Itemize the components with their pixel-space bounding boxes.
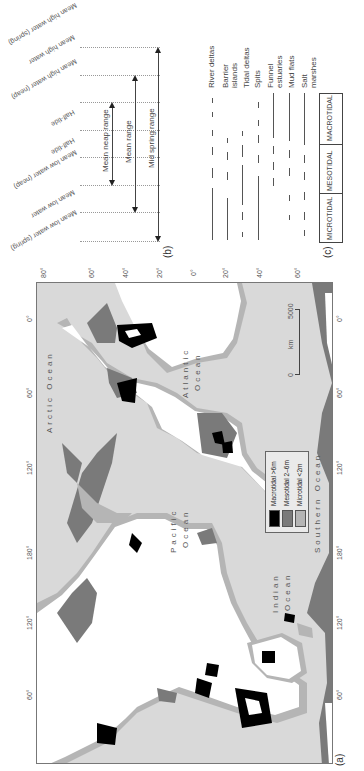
landform-label-line2: marshes bbox=[309, 57, 318, 88]
scale-bar-tick bbox=[295, 374, 300, 375]
arrow-down-icon bbox=[155, 236, 161, 242]
level-line bbox=[80, 212, 160, 213]
regime-cell-microtidal: MICROTIDAL bbox=[320, 194, 342, 242]
occurrence-segment bbox=[212, 112, 213, 117]
range-label-mean: Mean range bbox=[124, 120, 133, 163]
legend-label-microtidal: Microtidal <2m bbox=[296, 464, 303, 506]
level-label-mlw-neap: Mean low water (neap) bbox=[13, 149, 78, 191]
panel-label-c: (c) bbox=[322, 246, 333, 258]
lon-tick-label: 120° bbox=[26, 461, 33, 475]
arrow-down-icon bbox=[132, 207, 138, 213]
range-label-spring: Mid spring range bbox=[147, 108, 156, 168]
neap-range-arrow bbox=[112, 104, 113, 184]
level-label-sub: (neap) bbox=[13, 174, 34, 190]
range-label-neap: Mean neap range bbox=[101, 109, 110, 172]
level-label-mlw-spring: Mean low water (spring) bbox=[10, 209, 78, 252]
lat-tick-label: 60° bbox=[294, 267, 301, 278]
ocean-label-atlantic: Ocean bbox=[193, 352, 202, 391]
occurrence-segment bbox=[304, 212, 305, 220]
legend-swatch-mesotidal bbox=[282, 510, 293, 527]
level-label-text: Mean high water bbox=[30, 2, 78, 34]
occurrence-segment bbox=[258, 155, 259, 163]
occurrence-segment bbox=[289, 93, 290, 141]
lon-tick-label: 180° bbox=[336, 546, 343, 560]
ocean-label-indian: Indian bbox=[271, 573, 280, 613]
map-frame: Arctic Ocean Atlantic Ocean Pacific Ocea… bbox=[36, 282, 333, 764]
mean-range-arrow bbox=[135, 77, 136, 211]
legend-label-macrotidal: Macrotidal >6m bbox=[270, 461, 277, 506]
landform-label-spits: Spits bbox=[253, 70, 262, 88]
occurrence-segment bbox=[273, 162, 274, 170]
occurrence-segment bbox=[212, 168, 213, 178]
lon-tick-label: 120° bbox=[336, 616, 343, 630]
ocean-label-pacific: Ocean bbox=[181, 509, 190, 548]
occurrence-segment bbox=[212, 147, 213, 155]
lon-tick-label: 60° bbox=[336, 387, 343, 398]
occurrence-segment bbox=[289, 215, 290, 220]
occurrence-segment bbox=[304, 155, 305, 163]
panel-label-a: (a) bbox=[334, 754, 345, 766]
lon-tick-label: 120° bbox=[336, 461, 343, 475]
ocean-label-southern: Southern Ocean bbox=[313, 453, 322, 553]
level-label-half-tide-1: Half-tide bbox=[50, 109, 76, 128]
landform-label-line1: Barrier bbox=[221, 64, 230, 88]
occurrence-segment bbox=[242, 131, 243, 136]
ocean-label-indian: Ocean bbox=[283, 572, 292, 611]
occurrence-segment bbox=[242, 145, 243, 157]
lon-tick-label: 60° bbox=[336, 689, 343, 700]
arrow-up-icon bbox=[132, 75, 138, 81]
tidal-regime-table: MACROTIDAL MESOTIDAL MICROTIDAL bbox=[319, 93, 343, 243]
lat-tick-label: 0° bbox=[190, 269, 197, 276]
lon-tick-label: 180° bbox=[26, 546, 33, 560]
landform-label-line2: estuaries bbox=[275, 56, 284, 88]
level-label-sub: (spring) bbox=[7, 29, 31, 47]
lon-tick-label: 60° bbox=[26, 689, 33, 700]
ocean-label-pacific: Pacific bbox=[169, 508, 178, 553]
level-line bbox=[80, 185, 160, 186]
scale-label-unit: km bbox=[287, 340, 294, 349]
level-line bbox=[80, 47, 160, 48]
scale-bar-tick bbox=[295, 309, 300, 310]
lat-tick-label: 20° bbox=[156, 267, 163, 278]
landform-label-line1: Funnel bbox=[266, 64, 275, 88]
level-label-sub: (neap) bbox=[10, 85, 31, 101]
occurrence-segment bbox=[273, 146, 274, 154]
level-line bbox=[80, 102, 160, 103]
ocean-label-atlantic: Atlantic bbox=[181, 348, 190, 398]
occurrence-segment bbox=[258, 135, 259, 143]
lat-tick-label: 40° bbox=[122, 267, 129, 278]
panel-label-b: (b) bbox=[162, 246, 173, 258]
legend-swatch-microtidal bbox=[295, 510, 306, 527]
lat-tick-label: 60° bbox=[88, 267, 95, 278]
level-line bbox=[80, 75, 160, 76]
landform-label-line2: islands bbox=[230, 63, 239, 88]
legend-label-mesotidal: Mesotidal 2–6m bbox=[283, 460, 290, 506]
regime-label: MACROTIDAL bbox=[326, 95, 333, 141]
arrow-down-icon bbox=[109, 180, 115, 186]
occurrence-segment bbox=[304, 230, 305, 236]
regime-cell-macrotidal: MACROTIDAL bbox=[320, 94, 342, 145]
landform-label-line1: Salt bbox=[300, 74, 309, 88]
lat-tick-label: 40° bbox=[256, 267, 263, 278]
landform-label-funnel-estuaries: Funnelestuaries bbox=[266, 56, 284, 88]
landform-label-river-deltas: River deltas bbox=[207, 46, 216, 88]
scale-label-zero: 0 bbox=[287, 373, 294, 377]
occurrence-segment bbox=[304, 93, 305, 145]
landform-label-mud-flats: Mud flats bbox=[287, 56, 296, 88]
occurrence-segment bbox=[258, 102, 259, 108]
occurrence-segment bbox=[227, 198, 228, 240]
level-label-mhw-neap: Mean high water (neap) bbox=[10, 58, 78, 101]
level-line bbox=[80, 241, 160, 242]
occurrence-segment bbox=[227, 138, 228, 143]
occurrence-segment bbox=[304, 192, 305, 200]
occurrence-segment bbox=[212, 188, 213, 240]
lon-tick-label: 120° bbox=[26, 616, 33, 630]
occurrence-segment bbox=[258, 120, 259, 126]
occurrence-segment bbox=[227, 152, 228, 160]
arrow-up-icon bbox=[109, 102, 115, 108]
arrow-up-icon bbox=[155, 47, 161, 53]
landform-label-barrier-islands: Barrierislands bbox=[221, 63, 239, 88]
lat-tick-label: 80° bbox=[40, 267, 47, 278]
occurrence-segment bbox=[273, 93, 274, 138]
legend-swatch-macrotidal bbox=[269, 510, 280, 527]
